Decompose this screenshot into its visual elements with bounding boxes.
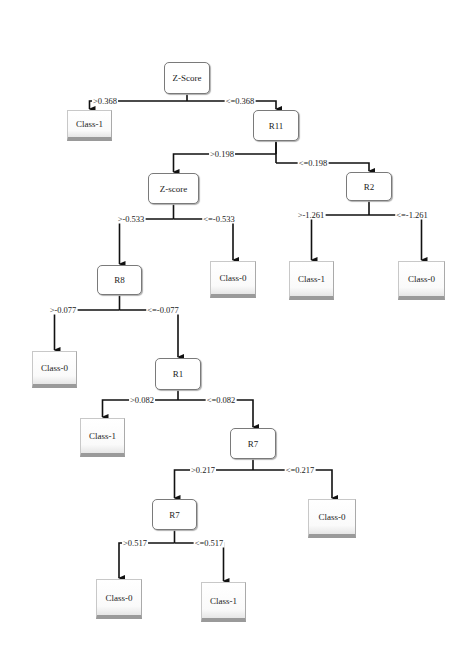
edge-condition-label: <=-0.077	[146, 306, 180, 315]
node-label: Z-Score	[173, 73, 202, 83]
edge-condition-label: <=0.198	[298, 159, 329, 168]
split-node: R7	[230, 428, 276, 459]
node-label: Class-1	[89, 431, 116, 441]
edge-condition-label: <=0.517	[194, 539, 225, 548]
edge-condition-label: >0.517	[122, 539, 148, 548]
split-node: R1	[155, 358, 201, 390]
node-label: Class-1	[210, 596, 237, 606]
decision-tree-diagram: >0.368<=0.368>0.198<=0.198>-0.533<=-0.53…	[0, 0, 470, 652]
node-label: R2	[364, 182, 375, 192]
edge-condition-label: <=0.368	[225, 97, 256, 106]
leaf-node: Class-1	[201, 582, 246, 622]
node-label: Class-0	[41, 363, 68, 373]
node-label: R1	[173, 369, 184, 379]
node-label: Class-0	[106, 593, 133, 603]
edge-condition-label: >-0.077	[49, 306, 78, 315]
edge-condition-label: <=-1.261	[395, 211, 429, 220]
edge-connector	[369, 215, 422, 260]
split-node: R8	[97, 265, 142, 295]
node-label: Class-0	[220, 273, 247, 283]
edge-condition-label: >-1.261	[297, 211, 326, 220]
edge-connector	[55, 295, 120, 350]
node-label: R7	[169, 510, 180, 520]
split-node: Z-Score	[164, 62, 210, 94]
edge-condition-label: >-0.533	[117, 215, 146, 224]
edge-connector	[175, 543, 224, 581]
leaf-node: Class-0	[210, 261, 256, 298]
edge-condition-label: <=0.217	[285, 466, 316, 475]
leaf-node: Class-1	[289, 261, 334, 300]
leaf-node: Class-0	[308, 499, 356, 538]
split-node: R2	[346, 172, 392, 201]
node-label: Class-1	[298, 274, 325, 284]
edge-condition-label: >0.368	[92, 97, 118, 106]
split-node: R11	[253, 110, 299, 141]
node-label: R7	[248, 439, 259, 449]
edge-connector	[174, 219, 234, 260]
edge-connector	[120, 310, 179, 357]
leaf-node: Class-0	[32, 351, 77, 388]
edge-condition-label: >0.198	[209, 150, 235, 159]
split-node: Z-score	[148, 173, 199, 204]
node-label: Class-1	[76, 119, 103, 129]
edge-condition-label: <=-0.533	[202, 215, 236, 224]
edge-condition-label: >0.082	[129, 396, 155, 405]
node-label: R8	[114, 275, 125, 285]
leaf-node: Class-0	[398, 261, 445, 300]
edge-condition-label: >0.217	[190, 466, 216, 475]
split-node: R7	[152, 499, 197, 530]
leaf-node: Class-1	[80, 418, 125, 457]
edge-condition-label: <=0.082	[206, 396, 237, 405]
leaf-node: Class-0	[96, 579, 142, 619]
node-label: Class-0	[408, 274, 435, 284]
leaf-node: Class-1	[67, 110, 112, 141]
node-label: Class-0	[319, 512, 346, 522]
node-label: Z-score	[160, 184, 187, 194]
node-label: R11	[269, 121, 284, 131]
